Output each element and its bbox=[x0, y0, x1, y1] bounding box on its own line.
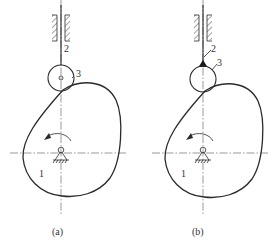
cam-profile bbox=[165, 84, 263, 198]
subfigure-a: 2 3 1 (a) bbox=[10, 0, 128, 238]
label-roller: 3 bbox=[76, 68, 81, 79]
caption-b: (b) bbox=[192, 226, 204, 238]
label-follower-rod: 2 bbox=[211, 43, 216, 54]
caption-a: (a) bbox=[52, 226, 63, 238]
cam-mechanism-diagram: 2 3 1 (a) bbox=[0, 0, 280, 247]
cam-profile bbox=[23, 83, 121, 197]
rotation-arrowhead-icon bbox=[44, 133, 51, 140]
label-follower-rod: 2 bbox=[64, 43, 69, 54]
rotation-arc bbox=[190, 134, 213, 141]
subfigure-b: 2 3 1 (b) bbox=[152, 0, 270, 238]
label-cam: 1 bbox=[39, 168, 44, 179]
rotation-arc bbox=[48, 134, 71, 141]
rotation-arrowhead-icon bbox=[186, 133, 193, 140]
label-roller: 3 bbox=[217, 57, 222, 68]
label-cam: 1 bbox=[181, 168, 186, 179]
